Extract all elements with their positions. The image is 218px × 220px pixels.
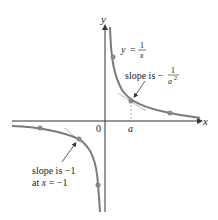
func-label-den: x xyxy=(139,51,144,60)
func-label-eq: = xyxy=(130,44,136,55)
func-label-num: 1 xyxy=(140,41,144,50)
point-a xyxy=(129,99,134,104)
slope-minus-1-line2: at x = −1 xyxy=(32,177,67,188)
point xyxy=(96,183,101,188)
func-label-y: y xyxy=(120,44,126,55)
graph-canvas: y x 0 a y = 1 x slope is − 1 a 2 slope i… xyxy=(0,0,218,220)
x-axis-label: x xyxy=(202,115,208,127)
arrow-slope-minus-1 xyxy=(62,144,75,162)
point xyxy=(111,55,116,60)
slope-minus-1-line1: slope is −1 xyxy=(32,165,75,176)
point-minus-1 xyxy=(77,137,82,142)
slope-a-num: 1 xyxy=(171,66,175,75)
slope-a-den: a xyxy=(168,77,172,86)
y-axis-label: y xyxy=(100,13,106,25)
slope-a-exp: 2 xyxy=(174,75,177,81)
origin-label: 0 xyxy=(96,123,101,134)
slope-a-text: slope is − xyxy=(125,70,164,81)
point xyxy=(168,111,173,116)
point xyxy=(38,126,43,131)
a-tick-label: a xyxy=(128,123,133,134)
arrow-slope-a xyxy=(135,81,145,96)
